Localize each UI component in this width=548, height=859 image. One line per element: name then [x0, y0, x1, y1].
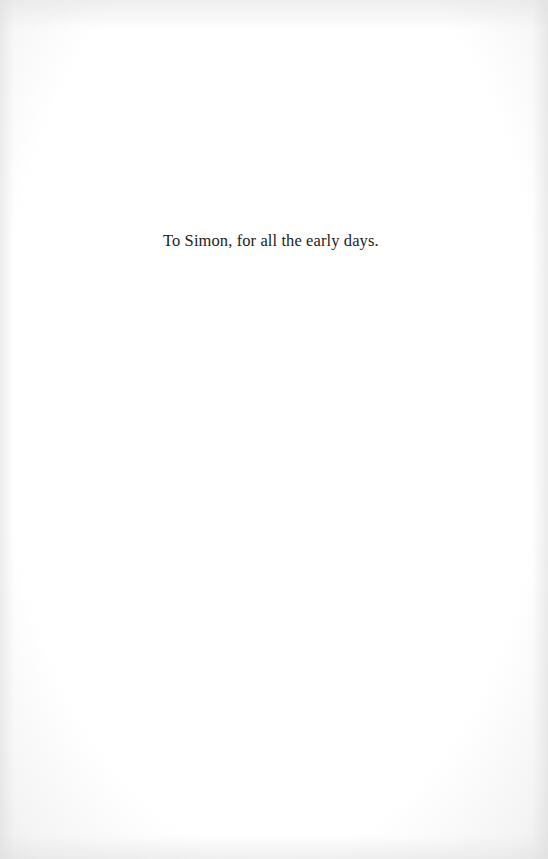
page-edge-shadow-top [0, 0, 548, 30]
page-edge-shadow-left [0, 0, 14, 859]
page-edge-shadow-right [532, 0, 548, 859]
page-edge-shadow-bottom [0, 835, 548, 859]
dedication-text: To Simon, for all the early days. [163, 231, 379, 251]
book-page: To Simon, for all the early days. [0, 0, 548, 859]
